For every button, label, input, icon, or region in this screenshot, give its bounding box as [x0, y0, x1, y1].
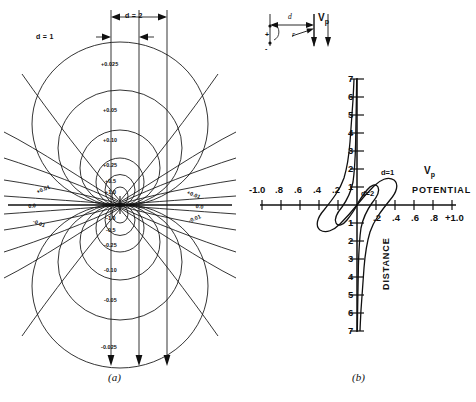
y-tick-lower-2: 3: [348, 254, 353, 264]
contour-label-upper-3: +0.25: [103, 163, 117, 168]
x-tick-left-0: -1.0: [249, 185, 265, 195]
y-tick-upper-6: 7: [348, 74, 353, 84]
y-tick-upper-4: 5: [348, 110, 353, 120]
panel-b-tag: (b): [352, 372, 365, 383]
curve-d2-lower: [335, 79, 357, 225]
y-tick-lower-6: 7: [348, 326, 353, 336]
contour-label-lower-0: -1.0: [106, 216, 116, 221]
x-tick-left-2: .6: [294, 185, 302, 195]
x-tick-left-1: .8: [275, 185, 283, 195]
axis-label-left-zero: 0.0: [28, 203, 36, 209]
contour-label-upper-1: +0.05: [103, 108, 117, 113]
y-tick-upper-2: 3: [348, 146, 353, 156]
panel-b-graphic: [240, 0, 476, 402]
electrode-lines: [111, 10, 167, 358]
inset-vp-symbol: V: [318, 12, 325, 23]
y-tick-upper-1: 2: [348, 164, 353, 174]
contour-label-lower-3: -0.10: [104, 268, 117, 273]
electrode-arrowheads: [108, 355, 171, 366]
panel-a-tag: (a): [108, 372, 121, 383]
inset-minus-label: -: [265, 45, 267, 52]
inset-vp-label: Vp: [318, 13, 329, 25]
inset-vp-subscript: p: [325, 18, 329, 25]
x-axis-title: POTENTIAL: [412, 186, 471, 195]
curve-label-d1: d=1: [381, 169, 394, 177]
y-tick-lower-0: 1: [348, 218, 353, 228]
contour-label-upper-0: +0.025: [101, 62, 118, 67]
curve-label-d2: d=2: [361, 190, 374, 198]
y-tick-lower-5: 6: [348, 308, 353, 318]
dimension-label-d1: d = 1: [36, 33, 54, 40]
y-tick-upper-0: 1: [348, 182, 353, 192]
y-tick-upper-5: 6: [348, 92, 353, 102]
contour-label-lower-1: -0.5: [106, 228, 116, 233]
x-tick-right-1: .4: [392, 213, 400, 223]
y-axis-title: DISTANCE: [382, 237, 391, 290]
y-tick-upper-3: 4: [348, 128, 353, 138]
contour-label-upper-5: +1.0: [105, 190, 116, 195]
y-tick-lower-1: 2: [348, 236, 353, 246]
x-axis-symbol-label: Vp: [424, 166, 435, 178]
inset-r-label: r: [292, 31, 295, 39]
x-tick-left-3: .4: [313, 185, 321, 195]
y-tick-lower-4: 5: [348, 290, 353, 300]
x-axis-symbol-subscript: p: [431, 171, 435, 178]
contour-label-lower-2: -0.25: [104, 243, 117, 248]
dimension-label-d2: d = 2: [125, 12, 143, 19]
x-tick-left-4: .2: [332, 185, 340, 195]
figure-root: d = 1 d = 2 +0.025 +0.05 +0.10 +0.25 +0.…: [0, 0, 476, 402]
x-tick-right-4: +1.0: [445, 213, 464, 223]
panel-a-graphic: [0, 0, 240, 402]
x-tick-right-0: .2: [373, 213, 381, 223]
contour-label-lower-4: -0.05: [104, 298, 117, 303]
contour-label-lower-5: -0.025: [101, 345, 117, 350]
contour-label-upper-2: +0.10: [103, 138, 117, 143]
inset-plus-label: +: [265, 31, 269, 38]
x-axis-symbol: V: [424, 165, 431, 176]
contour-label-upper-4: +0.5: [105, 179, 116, 184]
dimension-d1: [96, 34, 154, 41]
y-tick-lower-3: 4: [348, 272, 353, 282]
x-tick-right-2: .6: [411, 213, 419, 223]
x-tick-right-3: .8: [430, 213, 438, 223]
curve-d2-upper: [357, 185, 379, 331]
inset-d-label: d: [288, 13, 292, 21]
axis-label-right-zero: 0.0: [195, 204, 203, 210]
